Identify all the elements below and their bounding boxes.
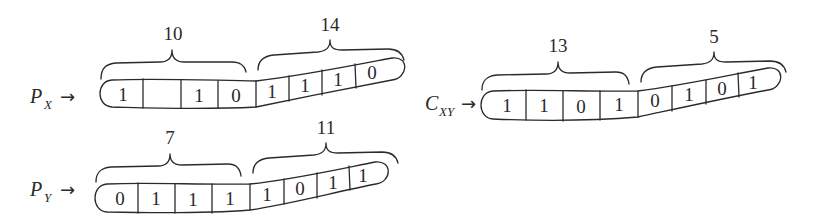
cell-bit: 0: [650, 90, 660, 111]
brace-left: [482, 62, 629, 90]
pointer-subscript: XY: [438, 104, 456, 119]
brace-label: 7: [165, 127, 175, 148]
strip-px: P X → 1 1 0 1 1 1 0 10 14: [29, 14, 405, 112]
brace-left: [101, 50, 246, 79]
pointer-subscript: X: [43, 97, 53, 112]
strip-outline: [95, 162, 388, 213]
cell-bit: 1: [684, 84, 694, 105]
cell-bit: 1: [328, 172, 338, 193]
cell-bit: 1: [262, 184, 272, 205]
cell-divider: [738, 73, 739, 97]
pointer-subscript: Y: [44, 190, 53, 205]
cell-bit: 1: [225, 188, 235, 209]
diagram-canvas: P X → 1 1 0 1 1 1 0 10 14 P Y →: [0, 0, 826, 224]
cell-bit: 1: [358, 165, 368, 186]
cell-bit: 1: [151, 188, 161, 209]
cell-divider: [349, 166, 350, 190]
cell-bit: 1: [614, 94, 624, 115]
cell-bit: 1: [267, 81, 277, 102]
cell-bit: 1: [300, 75, 310, 96]
cell-divider: [355, 64, 356, 88]
arrow-right-icon: →: [60, 179, 75, 200]
cell-bit: 0: [367, 62, 377, 83]
cell-bit: 0: [295, 178, 305, 199]
pointer-label-cxy: C XY →: [425, 92, 476, 119]
arrow-right-icon: →: [461, 93, 476, 114]
cell-bit: 1: [188, 189, 198, 210]
strip-outline: [100, 58, 405, 109]
pointer-name: P: [29, 178, 42, 200]
cell-bit: 1: [333, 69, 343, 90]
brace-label: 13: [549, 35, 568, 56]
brace-right: [258, 40, 404, 70]
arrow-right-icon: →: [60, 86, 75, 107]
brace-label: 14: [321, 14, 341, 35]
pointer-name: P: [29, 85, 42, 107]
cell-bit: 1: [748, 72, 758, 93]
brace-right: [253, 143, 398, 173]
cell-bit: 1: [502, 95, 512, 116]
pointer-name: C: [425, 92, 439, 114]
brace-left: [96, 154, 241, 182]
cell-bit: 0: [115, 188, 125, 209]
cell-bit: 1: [194, 85, 204, 106]
brace-label: 10: [164, 23, 183, 44]
strip-cxy: C XY → 1 1 0 1 0 1 0 1 13 5: [425, 26, 786, 121]
brace-right: [641, 52, 786, 82]
cell-bit: 1: [539, 95, 549, 116]
cell-bit: 0: [231, 85, 241, 106]
pointer-label-px: P X →: [29, 85, 75, 112]
strip-py: P Y → 0 1 1 1 1 0 1 1 7 11: [29, 117, 398, 213]
brace-label: 5: [709, 26, 719, 47]
pointer-label-py: P Y →: [29, 178, 75, 205]
brace-label: 11: [317, 117, 335, 138]
cell-bit: 0: [717, 78, 727, 99]
cell-bit: 0: [576, 96, 586, 117]
cell-bit: 1: [118, 84, 128, 105]
